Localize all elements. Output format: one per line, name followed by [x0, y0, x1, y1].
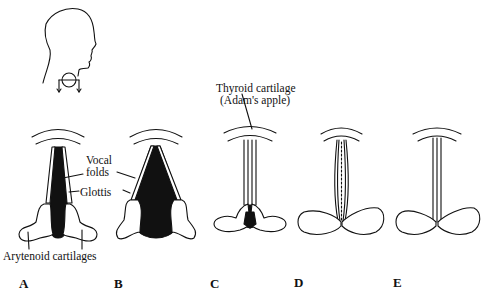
head-profile-icon [43, 9, 96, 92]
thyroid-cartilage-label: Thyroid cartilage [216, 82, 296, 94]
panel-c-larynx [214, 94, 286, 232]
panel-label-d: D [294, 275, 303, 291]
panel-label-c: C [210, 276, 219, 292]
panel-label-a: A [19, 276, 28, 292]
panel-d-larynx [298, 128, 384, 234]
vocal-folds-label-line2: folds [86, 166, 109, 178]
adams-apple-label: (Adam's apple) [220, 94, 290, 106]
arytenoid-cartilages-label: Arytenoid cartilages [3, 250, 97, 262]
vocal-folds-label-line1: Vocal [86, 154, 112, 166]
glottis-label: Glottis [80, 186, 111, 198]
panel-label-e: E [393, 275, 402, 291]
panel-e-larynx [396, 128, 480, 234]
panel-label-b: B [114, 276, 123, 292]
panel-b-larynx [116, 130, 195, 239]
